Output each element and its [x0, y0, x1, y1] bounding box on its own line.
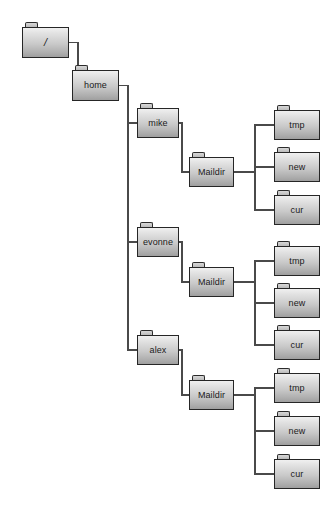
folder-body: Maildir	[189, 267, 234, 297]
folder-label: Maildir	[198, 168, 225, 177]
folder-label: tmp	[289, 257, 304, 266]
connector-evonne-maildir-to-evonne-new	[234, 282, 274, 303]
folder-body: cur	[274, 195, 320, 225]
folder-node-alex-cur[interactable]: cur	[274, 454, 320, 489]
folder-body: new	[274, 152, 320, 182]
folder-label: mike	[148, 119, 167, 128]
connector-mike-maildir-to-mike-cur	[234, 172, 274, 210]
folder-body: new	[274, 288, 320, 318]
connector-alex-maildir-to-alex-tmp	[234, 388, 274, 395]
folder-node-mike-tmp[interactable]: tmp	[274, 105, 320, 140]
connector-evonne-maildir-to-evonne-tmp	[234, 261, 274, 282]
folder-node-alex-maildir[interactable]: Maildir	[189, 375, 234, 410]
folder-label: alex	[150, 346, 167, 355]
folder-label: /	[44, 37, 47, 48]
connector-home-to-alex	[119, 86, 137, 351]
folder-body: mike	[137, 108, 179, 138]
folder-node-root[interactable]: /	[22, 22, 69, 58]
folder-node-mike-cur[interactable]: cur	[274, 190, 320, 225]
folder-node-alex-new[interactable]: new	[274, 411, 320, 446]
folder-node-mike-maildir[interactable]: Maildir	[189, 152, 234, 187]
folder-body: Maildir	[189, 380, 234, 410]
folder-tree-diagram: /homemikeMaildirtmpnewcurevonneMaildirtm…	[0, 0, 333, 515]
folder-label: cur	[291, 206, 304, 215]
folder-label: tmp	[289, 121, 304, 130]
folder-label: cur	[291, 341, 304, 350]
connector-alex-maildir-to-alex-cur	[234, 395, 274, 474]
folder-label: new	[289, 299, 306, 308]
folder-body: tmp	[274, 373, 320, 403]
folder-node-evonne-new[interactable]: new	[274, 283, 320, 318]
folder-body: new	[274, 416, 320, 446]
folder-body: evonne	[137, 227, 179, 257]
folder-label: new	[289, 163, 306, 172]
folder-label: home	[84, 81, 107, 90]
folder-node-alex[interactable]: alex	[137, 330, 179, 365]
folder-body: cur	[274, 459, 320, 489]
connector-mike-maildir-to-mike-tmp	[234, 125, 274, 172]
folder-body: alex	[137, 335, 179, 365]
folder-node-mike[interactable]: mike	[137, 103, 179, 138]
connector-home-to-mike	[119, 86, 137, 124]
connector-home-to-evonne	[119, 86, 137, 243]
connector-alex-to-alex-maildir	[179, 350, 189, 395]
folder-node-evonne-maildir[interactable]: Maildir	[189, 262, 234, 297]
folder-label: Maildir	[198, 391, 225, 400]
folder-label: cur	[291, 470, 304, 479]
folder-body: Maildir	[189, 157, 234, 187]
folder-label: evonne	[143, 238, 173, 247]
connector-alex-maildir-to-alex-new	[234, 395, 274, 431]
folder-body: cur	[274, 330, 320, 360]
folder-node-mike-new[interactable]: new	[274, 147, 320, 182]
connector-evonne-maildir-to-evonne-cur	[234, 282, 274, 345]
folder-body: home	[72, 70, 119, 101]
folder-body: /	[22, 27, 69, 58]
folder-node-evonne-cur[interactable]: cur	[274, 325, 320, 360]
folder-node-evonne[interactable]: evonne	[137, 222, 179, 257]
folder-node-evonne-tmp[interactable]: tmp	[274, 241, 320, 276]
folder-label: new	[289, 427, 306, 436]
folder-body: tmp	[274, 246, 320, 276]
connector-mike-maildir-to-mike-new	[234, 167, 274, 172]
folder-label: tmp	[289, 384, 304, 393]
folder-body: tmp	[274, 110, 320, 140]
folder-node-home[interactable]: home	[72, 65, 119, 101]
folder-label: Maildir	[198, 278, 225, 287]
connector-mike-to-mike-maildir	[179, 123, 189, 172]
connector-evonne-to-evonne-maildir	[179, 242, 189, 282]
folder-node-alex-tmp[interactable]: tmp	[274, 368, 320, 403]
